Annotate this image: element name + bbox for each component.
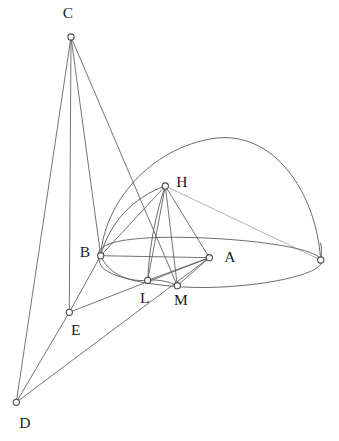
segment-B-E [69,256,100,313]
curve-outer-dome-arc [101,138,321,260]
labels-layer: CHBALMED [19,4,236,431]
segment-D-E [16,312,69,402]
edges-layer [16,37,320,402]
curves-layer [98,138,321,288]
segment-L-A [148,258,210,281]
geometry-canvas: CHBALMED [0,0,339,441]
segment-M-A [177,258,209,286]
vertex-label-b: B [80,243,91,260]
vertex-b [98,253,104,259]
vertex-d [13,399,19,405]
vertex-label-l: L [140,289,150,306]
vertex-a [206,255,212,261]
segment-D-A [16,258,209,403]
vertex-label-e: E [71,321,81,338]
vertex-r [318,257,324,263]
vertex-label-h: H [176,173,188,190]
vertex-label-d: D [19,414,31,431]
vertex-label-a: A [224,248,236,265]
vertex-label-c: C [63,4,74,21]
segment-B-A [101,256,210,258]
vertex-e [66,309,72,315]
vertex-l [145,277,151,283]
segment-C-E [69,37,71,312]
segment-C-D [16,37,71,402]
vertex-c [68,34,74,40]
vertex-label-m: M [174,291,188,308]
segment-C-B [71,37,101,256]
vertices-layer [13,34,324,406]
vertex-h [162,183,168,189]
segment-R-H [165,186,320,260]
segment-H-L [148,186,166,280]
vertex-m [174,283,180,289]
geometry-figure: CHBALMED [0,0,339,441]
